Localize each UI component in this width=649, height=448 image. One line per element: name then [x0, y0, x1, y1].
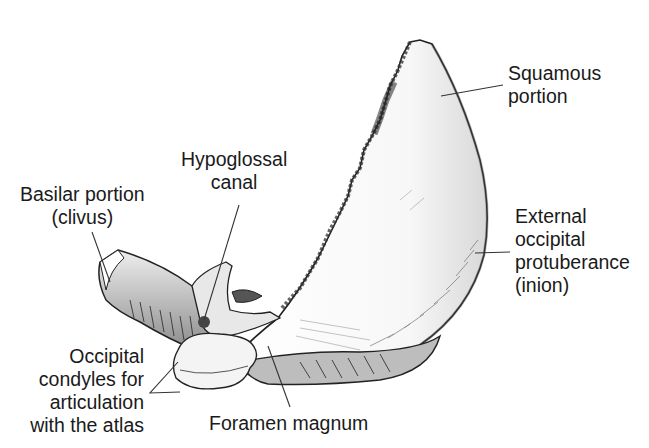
label-occipital-condyles: Occipital condyles for articulation with…: [24, 345, 144, 437]
label-hypoglossal-canal: Hypoglossal canal: [181, 148, 287, 194]
label-line: articulation: [24, 391, 144, 414]
label-line: External: [515, 205, 630, 228]
label-line: condyles for: [24, 368, 144, 391]
label-line: protuberance: [515, 251, 630, 274]
label-line: canal: [181, 171, 287, 194]
label-foramen-magnum: Foramen magnum: [209, 412, 368, 435]
label-line: with the atlas: [24, 414, 144, 437]
label-external-occipital-protuberance: External occipital protuberance (inion): [515, 205, 630, 297]
label-line: Hypoglossal: [181, 148, 287, 171]
label-line: Squamous: [508, 62, 601, 85]
occipital-condyles: [173, 333, 256, 389]
squamous-portion: [232, 40, 487, 380]
label-line: (clivus): [20, 206, 145, 229]
hypoglossal-canal-opening: [198, 316, 210, 328]
label-line: Foramen magnum: [209, 412, 368, 435]
label-line: occipital: [515, 228, 630, 251]
label-squamous-portion: Squamous portion: [508, 62, 601, 108]
label-line: Occipital: [24, 345, 144, 368]
label-line: (inion): [515, 274, 630, 297]
label-basilar-portion: Basilar portion (clivus): [20, 183, 145, 229]
label-line: Basilar portion: [20, 183, 145, 206]
label-line: portion: [508, 85, 601, 108]
